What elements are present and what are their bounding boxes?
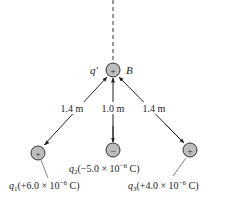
point-label-b: B [126, 64, 133, 76]
distance-label-q2: 1.0 m [102, 103, 125, 114]
plus-sign-icon: + [110, 66, 115, 76]
arrow-b-to-q3 [165, 124, 184, 143]
distance-label-q1: 1.4 m [61, 103, 84, 114]
test-charge-symbol: q′ [90, 64, 99, 76]
charge-label-q3: q3(+4.0 × 10−6 C) [128, 179, 199, 193]
plus-sign-icon: + [187, 146, 192, 156]
charge-label-q2: q2(−5.0 × 10−6 C) [69, 162, 140, 176]
charge-label-q1: q1(+6.0 × 10−6 C) [9, 179, 80, 193]
leader-line-q1 [41, 160, 48, 178]
minus-sign-icon: − [110, 146, 115, 156]
distance-label-q3: 1.4 m [143, 103, 166, 114]
leader-line-q3 [173, 158, 186, 176]
charge-diagram: 1.4 m 1.0 m 1.4 m + q′ B + − + q2(−5.0 ×… [0, 0, 226, 201]
plus-sign-icon: + [35, 149, 40, 159]
